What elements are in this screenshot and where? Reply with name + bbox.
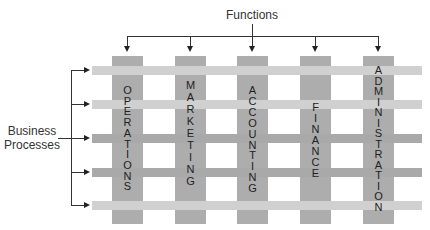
functions-connector-line [127,36,379,37]
functions-label: Functions [224,8,280,22]
label-letter: E [312,168,319,179]
functions-stem-line [252,24,253,36]
arrow-right-icon [84,135,90,141]
label-letter: T [375,170,382,181]
label-letter: A [375,65,382,76]
label-letter: A [187,91,194,103]
processes-stem-line [58,138,71,139]
function-drop-line [378,36,379,46]
process-arrow-line [71,205,85,206]
function-drop-line [315,36,316,46]
arrow-down-icon [249,46,255,52]
business-label-line2: Processes [4,138,60,152]
function-label-finance: FINANCE [300,102,331,179]
process-arrow-line [71,138,85,139]
business-processes-label: Business Processes [4,124,60,152]
label-letter: S [375,128,382,139]
label-letter: K [187,115,194,127]
label-letter: O [248,118,257,129]
label-letter: G [248,183,257,194]
label-letter: G [186,175,195,187]
arrow-down-icon [375,46,381,52]
function-drop-line [252,36,253,46]
function-drop-line [190,36,191,46]
process-arrow-line [71,104,85,105]
label-letter: R [187,103,195,115]
label-letter: M [374,86,383,97]
label-letter: M [186,79,195,91]
label-letter: N [187,163,195,175]
arrow-right-icon [84,202,90,208]
function-label-operations: OPERATIONS [112,85,143,192]
arrow-right-icon [84,169,90,175]
label-letter: E [187,127,194,139]
label-letter: N [375,107,383,118]
label-letter: N [375,202,383,213]
function-label-marketing: MARKETING [175,79,206,187]
label-letter: T [187,139,194,151]
function-label-administration: ADMINISTRATION [363,65,394,212]
arrow-down-icon [124,46,130,52]
arrow-right-icon [84,101,90,107]
label-letter: U [249,129,257,140]
arrow-down-icon [312,46,318,52]
process-arrow-line [71,172,85,173]
process-arrow-line [71,70,85,71]
arrow-right-icon [84,67,90,73]
label-letter: S [124,181,131,192]
arrow-down-icon [187,46,193,52]
label-letter: O [374,191,383,202]
function-label-accounting: ACCOUNTING [237,85,268,194]
label-letter: I [189,151,192,163]
business-label-line1: Business [4,124,60,138]
label-letter: A [124,128,131,139]
function-drop-line [127,36,128,46]
label-letter: R [375,149,383,160]
